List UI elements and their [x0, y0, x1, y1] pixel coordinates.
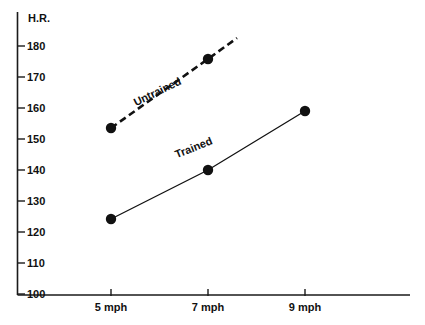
y-tick-marks — [18, 46, 26, 294]
series-trained: Trained — [106, 106, 310, 224]
y-axis-title: H.R. — [28, 12, 50, 24]
series-untrained: Untrained — [106, 38, 237, 133]
y-tick-label-140: 140 — [27, 164, 45, 176]
y-tick-labels: 180 170 160 150 140 130 120 110 100 — [27, 40, 45, 300]
trained-point-5mph — [106, 214, 116, 224]
chart-plot-area: H.R. 180 170 160 150 140 130 120 110 100 — [0, 0, 425, 325]
untrained-series-label: Untrained — [132, 75, 183, 108]
untrained-point-7mph — [203, 54, 213, 64]
untrained-point-5mph — [106, 123, 116, 133]
trained-point-9mph — [300, 106, 310, 116]
y-tick-label-120: 120 — [27, 226, 45, 238]
y-tick-label-110: 110 — [27, 257, 45, 269]
heart-rate-line-chart: H.R. 180 170 160 150 140 130 120 110 100 — [0, 0, 425, 325]
y-tick-label-180: 180 — [27, 40, 45, 52]
y-tick-label-160: 160 — [27, 102, 45, 114]
x-tick-label-9mph: 9 mph — [289, 301, 322, 313]
x-tick-label-7mph: 7 mph — [192, 301, 225, 313]
trained-point-7mph — [203, 165, 213, 175]
y-tick-label-100: 100 — [27, 288, 45, 300]
y-tick-label-170: 170 — [27, 71, 45, 83]
y-tick-label-150: 150 — [27, 133, 45, 145]
x-tick-label-5mph: 5 mph — [95, 301, 128, 313]
trained-series-label: Trained — [173, 134, 214, 160]
y-tick-label-130: 130 — [27, 195, 45, 207]
x-tick-labels: 5 mph 7 mph 9 mph — [95, 301, 322, 313]
